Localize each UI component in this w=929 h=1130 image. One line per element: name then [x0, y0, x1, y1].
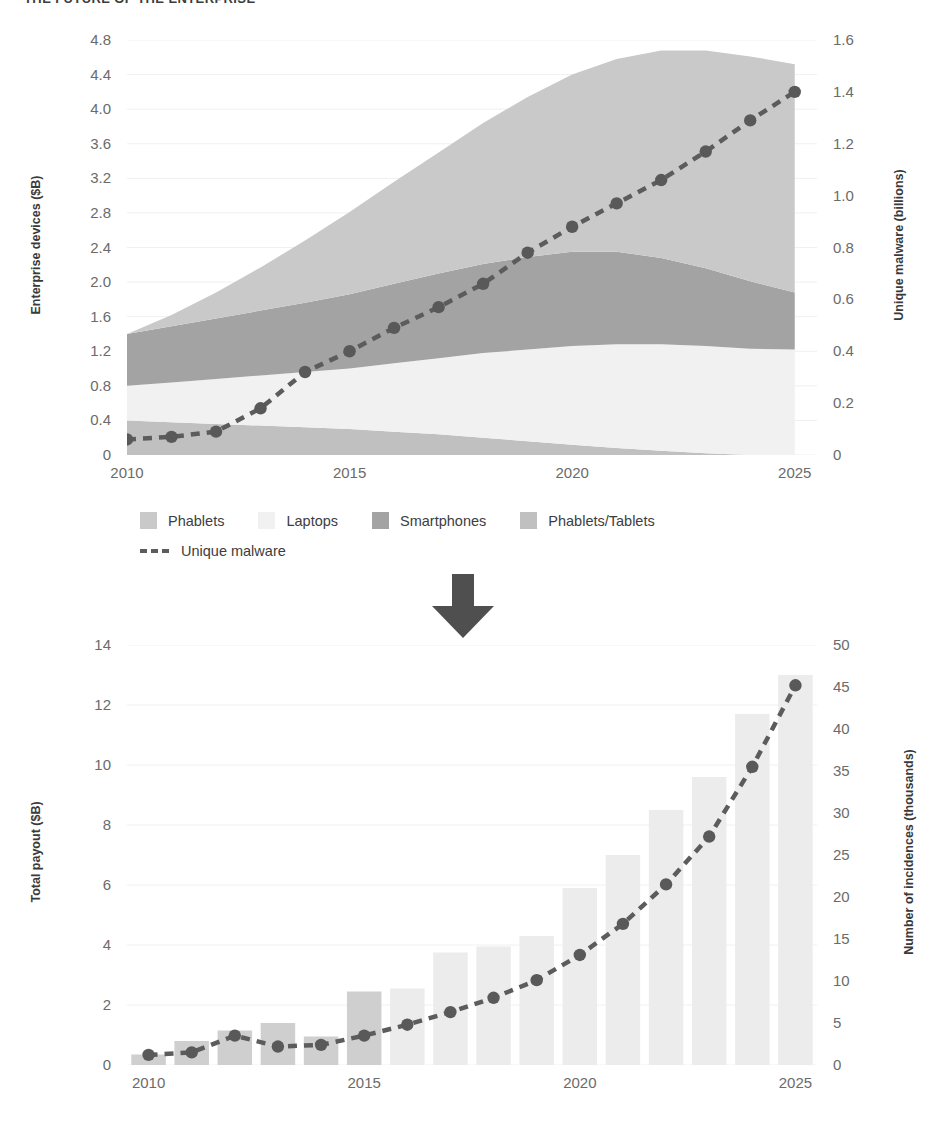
- chart2-bar: [347, 992, 382, 1066]
- chart1-y2-tick: 0.2: [833, 395, 893, 410]
- chart2-data-point: [401, 1018, 413, 1030]
- chart2-svg: [127, 645, 817, 1065]
- chart2-bar: [519, 936, 554, 1065]
- chart2-y2-tick: 40: [833, 721, 893, 736]
- chart1-y-tick: 0.8: [0, 378, 111, 393]
- chart2-y-tick: 4: [0, 937, 111, 952]
- chart1-data-point: [210, 425, 222, 437]
- chart2-y2-tick: 35: [833, 763, 893, 778]
- chart1-data-point: [655, 174, 667, 186]
- chart2-data-point: [444, 1006, 456, 1018]
- chart2-data-point: [574, 949, 586, 961]
- chart1-data-point: [700, 145, 712, 157]
- chart1-y2-tick: 1.0: [833, 188, 893, 203]
- chart1-data-point: [343, 345, 355, 357]
- chart2-data-point: [185, 1046, 197, 1058]
- legend-label: Phablets/Tablets: [548, 513, 654, 529]
- chart1-x-tick: 2025: [750, 465, 840, 480]
- chart1-y2-tick: 0: [833, 447, 893, 462]
- chart1-data-point: [254, 402, 266, 414]
- chart1-y2-tick: 0.6: [833, 291, 893, 306]
- chart1-y2-tick: 0.8: [833, 240, 893, 255]
- chart2-x-tick: 2010: [104, 1075, 194, 1090]
- chart1-y-tick: 2.4: [0, 240, 111, 255]
- chart2-y-tick: 2: [0, 997, 111, 1012]
- chart2-bar: [476, 947, 511, 1066]
- chart2-data-point: [617, 918, 629, 930]
- chart2-bar: [778, 675, 813, 1065]
- chart1-data-point: [165, 431, 177, 443]
- chart2-bar: [563, 888, 598, 1065]
- chart2-y-tick: 6: [0, 877, 111, 892]
- chart-page: THE FUTURE OF THE ENTERPRISE Enterprise …: [0, 0, 929, 1130]
- chart2-y2-axis-label: Number of incidences (thousands): [902, 732, 916, 972]
- chart1-data-point: [477, 278, 489, 290]
- chart1-y-tick: 1.6: [0, 309, 111, 324]
- chart2-bar: [606, 855, 641, 1065]
- chart2-data-point: [358, 1029, 370, 1041]
- chart2-y2-tick: 50: [833, 637, 893, 652]
- legend-item-smartphones[interactable]: Smartphones: [372, 512, 486, 529]
- chart1-y2-tick: 1.4: [833, 84, 893, 99]
- chart2-y-tick: 0: [0, 1057, 111, 1072]
- chart2-plot-area: [127, 645, 817, 1065]
- chart2-y-tick: 10: [0, 757, 111, 772]
- chart1-y-tick: 3.2: [0, 170, 111, 185]
- page-title: THE FUTURE OF THE ENTERPRISE: [24, 0, 256, 6]
- chart2-y2-tick: 30: [833, 805, 893, 820]
- legend-swatch-icon: [258, 512, 275, 529]
- chart2-y2-tick: 45: [833, 679, 893, 694]
- chart1-y-tick: 2.8: [0, 205, 111, 220]
- legend-item-laptops[interactable]: Laptops: [258, 512, 338, 529]
- legend-row-line: Unique malware: [140, 543, 840, 559]
- legend-item-unique-malware[interactable]: Unique malware: [140, 543, 286, 559]
- chart1-y-tick: 4.0: [0, 101, 111, 116]
- chart1-svg: [127, 40, 817, 455]
- chart1-legend: PhabletsLaptopsSmartphonesPhablets/Table…: [140, 512, 840, 559]
- chart1-data-point: [521, 246, 533, 258]
- chart1-data-point: [432, 301, 444, 313]
- chart2-y-tick: 8: [0, 817, 111, 832]
- chart1-y-tick: 4.4: [0, 67, 111, 82]
- down-arrow-svg: [428, 572, 498, 640]
- chart2-bar: [649, 810, 684, 1065]
- chart1-data-point: [299, 366, 311, 378]
- chart2-data-point: [272, 1040, 284, 1052]
- legend-label: Smartphones: [400, 513, 486, 529]
- chart2-y-tick: 14: [0, 637, 111, 652]
- chart2-y-tick: 12: [0, 697, 111, 712]
- legend-item-phablets[interactable]: Phablets: [140, 512, 224, 529]
- legend-row-areas: PhabletsLaptopsSmartphonesPhablets/Table…: [140, 512, 840, 529]
- legend-label: Phablets: [168, 513, 224, 529]
- chart2-data-point: [660, 878, 672, 890]
- chart2-y2-tick: 20: [833, 889, 893, 904]
- chart2-data-point: [487, 992, 499, 1004]
- chart1-data-point: [744, 114, 756, 126]
- down-arrow-shape: [432, 574, 494, 638]
- chart2-data-point: [142, 1049, 154, 1061]
- chart1-x-tick: 2015: [305, 465, 395, 480]
- chart1-y2-tick: 1.2: [833, 136, 893, 151]
- chart2-data-point: [703, 830, 715, 842]
- chart1-y-tick: 0.4: [0, 412, 111, 427]
- chart2-x-tick: 2025: [750, 1075, 840, 1090]
- legend-swatch-icon: [372, 512, 389, 529]
- chart1-data-point: [388, 322, 400, 334]
- chart1-y-tick: 4.8: [0, 32, 111, 47]
- chart2-y2-tick: 15: [833, 931, 893, 946]
- chart1-x-tick: 2010: [82, 465, 172, 480]
- chart1-y-tick: 3.6: [0, 136, 111, 151]
- chart1-data-point: [789, 86, 801, 98]
- chart2-data-point: [315, 1039, 327, 1051]
- chart2-y2-tick: 0: [833, 1057, 893, 1072]
- chart1-plot-area: [127, 40, 817, 455]
- chart1-y-tick: 0: [0, 447, 111, 462]
- legend-item-phablets-tablets[interactable]: Phablets/Tablets: [520, 512, 654, 529]
- chart2-data-point: [746, 761, 758, 773]
- chart1-y2-tick: 0.4: [833, 343, 893, 358]
- chart2-y2-tick: 10: [833, 973, 893, 988]
- chart2-data-point: [789, 679, 801, 691]
- chart1-y-tick: 1.2: [0, 343, 111, 358]
- chart1-y2-axis-label: Unique malware (billions): [892, 145, 906, 345]
- chart1-y-tick: 2.0: [0, 274, 111, 289]
